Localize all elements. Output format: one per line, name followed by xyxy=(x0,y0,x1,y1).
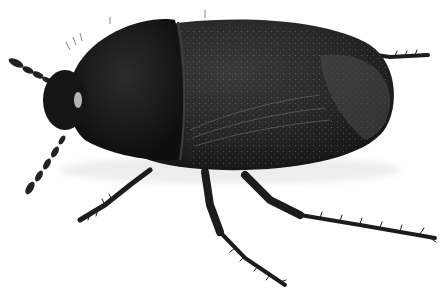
antenna-upper xyxy=(7,56,52,84)
leg-middle xyxy=(205,172,286,285)
antenna-lower xyxy=(23,134,66,195)
leg-hind xyxy=(245,175,436,242)
eye-highlight xyxy=(74,92,82,108)
beetle-photo xyxy=(0,0,444,299)
